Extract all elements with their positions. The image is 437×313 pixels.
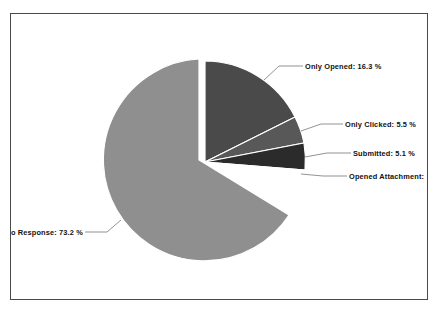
pie-chart: Only Opened: 16.3 % Only Clicked: 5.5 % … [11,14,426,298]
leader-line-only-opened [264,66,303,80]
pie-label-submitted: Submitted: 5.1 % [353,149,415,158]
leader-line-opened-attachment [301,174,347,176]
leader-line-only-clicked [301,124,343,131]
leader-line-no-response [85,220,121,232]
pie-label-only-clicked: Only Clicked: 5.5 % [345,120,416,129]
pie-label-opened-attachment: Opened Attachment: 0.0 % [349,172,426,181]
chart-frame: Only Opened: 16.3 % Only Clicked: 5.5 % … [10,13,428,300]
pie-label-only-opened: Only Opened: 16.3 % [305,62,382,71]
leader-line-submitted [305,153,351,157]
pie-label-no-response: No Response: 73.2 % [11,228,83,237]
